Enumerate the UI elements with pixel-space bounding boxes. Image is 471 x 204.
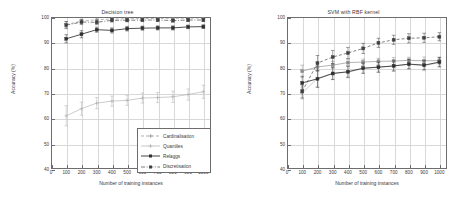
x-tick-label: 500 bbox=[123, 170, 131, 175]
legend-line-sample bbox=[140, 132, 161, 140]
x-axis-title-right: Number of training instances bbox=[287, 180, 447, 186]
legend-label: Discretisation bbox=[163, 164, 191, 169]
series-cardinalisation bbox=[300, 57, 441, 77]
y-tick-label: 100 bbox=[277, 15, 285, 20]
legend-label: Relaggs bbox=[163, 154, 180, 159]
x-tick-label: 100 bbox=[62, 170, 70, 175]
plot-lines-right bbox=[287, 17, 447, 169]
y-tick-label: 60 bbox=[280, 116, 285, 121]
legend-label: Cardinalisation bbox=[163, 134, 194, 139]
panel-svm-rbf: SVM with RBF kernel 01002003004005006007… bbox=[236, 0, 471, 204]
series-quantiles bbox=[64, 85, 205, 126]
x-tick-label: 400 bbox=[108, 170, 116, 175]
y-tick-label: 40 bbox=[280, 167, 285, 172]
figure-two-panel-accuracy-plots: Decision tree 01002003004005006007008009… bbox=[0, 0, 471, 204]
x-tick-label: 0 bbox=[286, 170, 289, 175]
x-tick-label: 0 bbox=[50, 170, 53, 175]
x-tick-labels-right: 01002003004005006007008009001000 bbox=[287, 170, 447, 179]
legend-item[interactable]: Discretisation bbox=[140, 162, 207, 172]
chart-title-left: Decision tree bbox=[0, 9, 235, 15]
legend-item[interactable]: Relaggs bbox=[140, 151, 207, 161]
legend-line-sample bbox=[140, 152, 161, 160]
x-tick-label: 300 bbox=[93, 170, 101, 175]
legend-line-sample bbox=[140, 142, 161, 150]
y-tick-labels-left: 405060708090100 bbox=[30, 17, 49, 169]
legend-item[interactable]: Cardinalisation bbox=[140, 131, 207, 141]
legend-left: CardinalisationQuantilesRelaggsDiscretis… bbox=[137, 128, 211, 173]
y-tick-label: 90 bbox=[44, 40, 49, 45]
x-tick-label: 800 bbox=[405, 170, 413, 175]
y-tick-label: 100 bbox=[41, 15, 49, 20]
legend-item[interactable]: Quantiles bbox=[140, 141, 207, 151]
x-tick-label: 900 bbox=[420, 170, 428, 175]
y-tick-label: 70 bbox=[280, 91, 285, 96]
y-axis-title-right: Accuracy (%) bbox=[246, 49, 252, 109]
x-tick-label: 200 bbox=[314, 170, 322, 175]
y-tick-label: 50 bbox=[44, 141, 49, 146]
y-tick-label: 60 bbox=[44, 116, 49, 121]
x-tick-label: 200 bbox=[78, 170, 86, 175]
chart-title-right: SVM with RBF kernel bbox=[236, 9, 471, 15]
y-tick-label: 70 bbox=[44, 91, 49, 96]
x-tick-label: 600 bbox=[375, 170, 383, 175]
y-tick-label: 40 bbox=[44, 167, 49, 172]
y-tick-label: 80 bbox=[44, 65, 49, 70]
y-tick-label: 80 bbox=[280, 65, 285, 70]
y-tick-label: 50 bbox=[280, 141, 285, 146]
x-axis-title-left: Number of training instances bbox=[51, 180, 211, 186]
series-relaggs bbox=[64, 25, 205, 43]
panel-decision-tree: Decision tree 01002003004005006007008009… bbox=[0, 0, 235, 204]
legend-line-sample bbox=[140, 163, 161, 171]
x-tick-label: 1000 bbox=[434, 170, 444, 175]
series-relaggs bbox=[300, 58, 441, 90]
x-tick-label: 400 bbox=[344, 170, 352, 175]
x-tick-label: 500 bbox=[359, 170, 367, 175]
legend-label: Quantiles bbox=[163, 144, 183, 149]
series-quantiles bbox=[300, 58, 441, 99]
y-axis-title-left: Accuracy (%) bbox=[10, 49, 16, 109]
y-tick-labels-right: 405060708090100 bbox=[266, 17, 285, 169]
x-tick-label: 700 bbox=[390, 170, 398, 175]
y-tick-label: 90 bbox=[280, 40, 285, 45]
x-tick-label: 100 bbox=[298, 170, 306, 175]
x-tick-label: 300 bbox=[329, 170, 337, 175]
